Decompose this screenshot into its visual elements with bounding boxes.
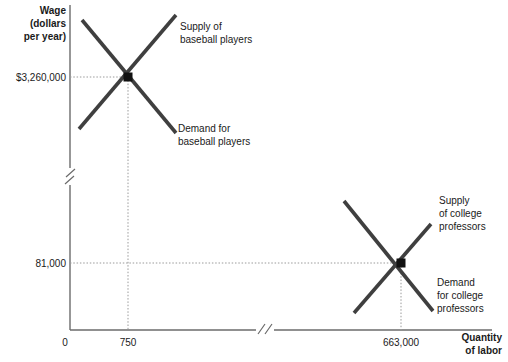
college-supply-label-line3: professors	[439, 221, 486, 232]
college-equilibrium-marker	[397, 259, 406, 268]
college-supply-label-line2: of college	[439, 208, 482, 219]
x-tick-label-college-quantity: 663,000	[375, 336, 427, 349]
y-axis-title-line2: (dollars	[30, 18, 66, 29]
college-demand-label-line1: Demand	[437, 277, 475, 288]
y-axis-title-line3: per year)	[24, 31, 66, 42]
y-tick-label-college-wage: 81,000	[8, 257, 66, 270]
x-axis-title-line1: Quantity	[461, 332, 502, 343]
college-supply-curve	[354, 224, 431, 313]
x-tick-label-baseball-quantity: 750	[112, 336, 144, 349]
x-tick-label-origin: 0	[59, 336, 71, 349]
x-axis-title: Quantityof labor	[436, 331, 502, 357]
labor-market-supply-demand-figure: Wage(dollarsper year) Quantityof labor $…	[0, 0, 508, 362]
college-demand-curve-label: Demandfor collegeprofessors	[437, 276, 484, 315]
baseball-demand-curve-label: Demand forbaseball players	[178, 122, 250, 148]
baseball-equilibrium-marker	[124, 73, 133, 82]
x-axis-title-line2: of labor	[465, 345, 502, 356]
college-demand-label-line3: professors	[437, 303, 484, 314]
baseball-demand-label-line1: Demand for	[178, 123, 230, 134]
baseball-supply-label-line2: baseball players	[180, 34, 252, 45]
baseball-supply-label-line1: Supply of	[180, 21, 222, 32]
x-axis-break-icon	[256, 323, 274, 335]
y-tick-label-baseball-wage: $3,260,000	[8, 71, 66, 84]
college-supply-label-line1: Supply	[439, 195, 470, 206]
baseball-demand-label-line2: baseball players	[178, 136, 250, 147]
college-demand-label-line2: for college	[437, 290, 483, 301]
y-axis-title-line1: Wage	[40, 5, 66, 16]
baseball-supply-curve-label: Supply ofbaseball players	[180, 20, 252, 46]
college-demand-curve	[344, 201, 433, 311]
y-axis-title: Wage(dollarsper year)	[14, 4, 66, 43]
college-supply-curve-label: Supplyof collegeprofessors	[439, 194, 486, 233]
y-axis-break-icon	[65, 168, 76, 185]
chart-canvas	[0, 0, 508, 362]
